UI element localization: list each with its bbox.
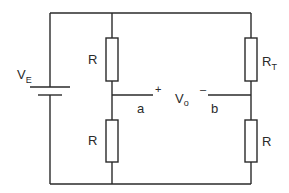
circuit-diagram: VE R R + a Vo – b RT R [0, 0, 289, 193]
resistor-top-left-label: R [88, 52, 97, 67]
node-b-label: b [211, 101, 218, 116]
source-label: VE [17, 67, 32, 85]
output-voltage-label: Vo [175, 91, 189, 108]
resistor-bottom-right [245, 120, 257, 162]
resistor-top-right [245, 38, 257, 81]
resistor-bottom-left-label: R [88, 133, 97, 148]
node-a-label: a [137, 101, 145, 116]
resistor-bottom-left [106, 120, 118, 162]
resistor-bottom-right-label: R [262, 134, 271, 149]
battery-source [30, 87, 70, 95]
resistor-top-left [106, 38, 118, 81]
resistor-top-right-label: RT [262, 54, 277, 72]
output-plus-sign: + [155, 83, 161, 95]
output-minus-sign: – [200, 83, 207, 95]
